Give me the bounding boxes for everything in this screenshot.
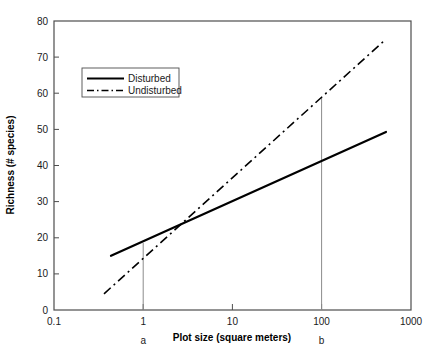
y-tick-label: 40 <box>37 160 49 171</box>
y-tick-label: 0 <box>42 305 48 316</box>
y-tick-label: 80 <box>37 16 49 27</box>
species-area-chart: 80 70 60 50 40 30 20 10 0 0.1 1 10 100 1… <box>0 0 436 357</box>
legend-label-disturbed: Disturbed <box>128 73 171 84</box>
y-tick-label: 10 <box>37 268 49 279</box>
annotation-label-b: b <box>319 335 325 346</box>
x-tick-label: 0.1 <box>47 316 61 327</box>
y-axis-title: Richness (# species) <box>5 116 16 215</box>
x-tick-label: 1 <box>140 316 146 327</box>
chart-svg: 80 70 60 50 40 30 20 10 0 0.1 1 10 100 1… <box>0 0 436 357</box>
y-tick-label: 60 <box>37 88 49 99</box>
y-tick-labels: 80 70 60 50 40 30 20 10 0 <box>37 16 49 316</box>
y-tick-label: 70 <box>37 52 49 63</box>
plot-frame <box>54 21 411 310</box>
legend: Disturbed Undisturbed <box>82 68 182 97</box>
y-tick-label: 50 <box>37 124 49 135</box>
legend-label-undisturbed: Undisturbed <box>128 85 182 96</box>
annotation-label-a: a <box>140 335 146 346</box>
y-tick-label: 30 <box>37 196 49 207</box>
y-tick-label: 20 <box>37 232 49 243</box>
x-tick-labels: 0.1 1 10 100 1000 <box>47 316 423 327</box>
x-tick-label: 10 <box>227 316 239 327</box>
x-tick-label: 100 <box>313 316 330 327</box>
x-tick-label: 1000 <box>400 316 423 327</box>
x-axis-title: Plot size (square meters) <box>173 332 291 343</box>
